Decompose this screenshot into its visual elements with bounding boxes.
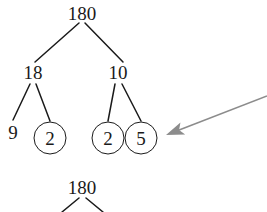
tree-leaf-circled-1-label: 2 (45, 129, 55, 148)
tree-edge-0 (35, 23, 79, 62)
tree-leaf-circled-1: 2 (34, 122, 67, 155)
partial-tree-edge-0 (62, 198, 79, 212)
callout-arrow-line (177, 96, 267, 131)
diagram-canvas (0, 0, 267, 212)
tree-leaf-circled-2: 2 (92, 122, 125, 155)
tree-leaf-circled-2-label: 2 (103, 129, 113, 148)
tree-edge-2 (13, 84, 30, 120)
tree-node-level2-1: 10 (109, 63, 128, 82)
tree-node-level2-0: 18 (24, 63, 43, 82)
tree-edge-4 (108, 84, 115, 121)
tree-leaf-0: 9 (8, 123, 18, 142)
partial-tree-edges (62, 198, 103, 212)
factor-tree-figure: 18018109225180 (0, 0, 267, 212)
tree-leaf-circled-3-label: 5 (136, 129, 146, 148)
partial-tree-edge-1 (86, 198, 103, 212)
tree-edge-5 (122, 84, 141, 121)
partial-tree-node-root: 180 (68, 178, 97, 197)
callout-arrow (166, 96, 267, 135)
tree-edge-3 (36, 84, 50, 121)
tree-node-root: 180 (68, 4, 97, 23)
tree-leaf-circled-3: 5 (125, 122, 158, 155)
tree-edge-1 (85, 23, 123, 62)
